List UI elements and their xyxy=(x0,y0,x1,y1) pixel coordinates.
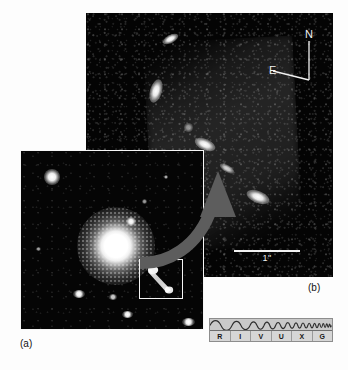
selection-box[interactable] xyxy=(139,259,183,299)
compass-east-label: E xyxy=(269,64,276,76)
scale-bar: 1" xyxy=(234,250,300,263)
spectrum-band-r[interactable]: R xyxy=(210,331,231,341)
compass-rose: N E xyxy=(267,27,323,89)
spectrum-band-i[interactable]: I xyxy=(231,331,252,341)
field-star xyxy=(122,311,133,318)
spectrum-band-x[interactable]: X xyxy=(292,331,313,341)
spectrum-band-u[interactable]: U xyxy=(272,331,293,341)
spectrum-band-list: R I V U X G xyxy=(210,330,332,341)
field-star xyxy=(109,294,117,300)
field-star xyxy=(164,175,168,179)
field-star xyxy=(36,247,41,251)
scale-bar-line xyxy=(234,250,300,252)
spectrum-band-g[interactable]: G xyxy=(313,331,333,341)
field-star xyxy=(182,318,195,326)
spectrum-band-v[interactable]: V xyxy=(251,331,272,341)
scale-bar-label: 1" xyxy=(234,253,300,263)
compass-north-label: N xyxy=(305,28,313,40)
field-star xyxy=(44,169,60,185)
field-star xyxy=(126,217,136,226)
jet-knot xyxy=(184,123,193,132)
panel-a-image xyxy=(21,151,203,329)
panel-a-label: (a) xyxy=(20,338,32,349)
spectrum-bar: R I V U X G xyxy=(209,318,333,342)
field-star xyxy=(73,290,85,298)
field-star xyxy=(142,199,147,204)
panel-b-label: (b) xyxy=(308,282,320,293)
